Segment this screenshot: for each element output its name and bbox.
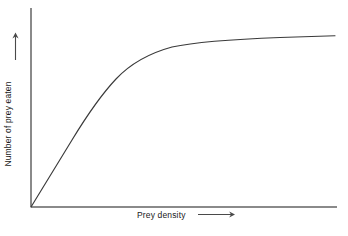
figure-container: Number of prey eaten Prey density [0,0,348,236]
response-curve [31,36,335,207]
plot-area [0,0,348,236]
x-axis-title-label: Prey density [137,210,186,220]
arrow-right-icon [198,211,235,217]
y-axis-title-label: Number of prey eaten [3,81,13,166]
y-axis-title: Number of prey eaten [0,0,16,236]
